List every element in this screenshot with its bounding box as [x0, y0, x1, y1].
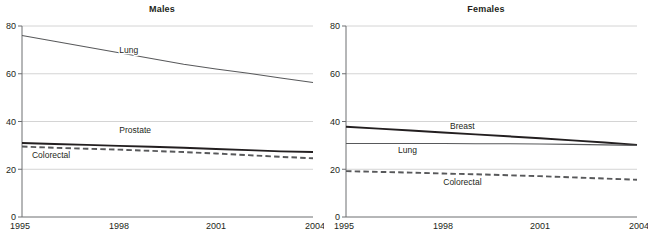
series-label-lung: Lung	[119, 45, 138, 55]
chart-females: 0204060801995199820012004BreastBreastLun…	[324, 0, 648, 234]
ytick-label-60: 60	[6, 69, 16, 79]
xtick-label-1998: 1998	[433, 221, 453, 231]
chart-males: 0204060801995199820012004LungLungProstat…	[0, 0, 324, 234]
ytick-label-20: 20	[330, 165, 340, 175]
series-label-colorectal: Colorectal	[32, 150, 70, 160]
ytick-label-60: 60	[330, 69, 340, 79]
ytick-label-80: 80	[330, 21, 340, 31]
panel-males: Males 0204060801995199820012004LungLungP…	[0, 0, 324, 234]
series-label-breast: Breast	[450, 121, 475, 131]
ytick-label-40: 40	[6, 117, 16, 127]
xtick-label-2004: 2004	[629, 221, 648, 231]
series-label-colorectal: Colorectal	[443, 177, 481, 187]
ytick-label-40: 40	[330, 117, 340, 127]
series-label-lung: Lung	[398, 145, 417, 155]
xtick-label-2001: 2001	[530, 221, 550, 231]
xtick-label-1995: 1995	[334, 221, 354, 231]
xtick-label-1998: 1998	[109, 221, 129, 231]
series-label-prostate: Prostate	[119, 125, 151, 135]
panel-females: Females 0204060801995199820012004BreastB…	[324, 0, 648, 234]
series-line-lung	[22, 36, 313, 83]
xtick-label-2001: 2001	[206, 221, 226, 231]
series-line-breast	[346, 127, 637, 145]
series-line-lung	[346, 143, 637, 145]
xtick-label-2004: 2004	[305, 221, 324, 231]
xtick-label-1995: 1995	[10, 221, 30, 231]
ytick-label-20: 20	[6, 165, 16, 175]
series-line-colorectal	[346, 171, 637, 180]
figure-two-panel-cancer-mortality-trends: Males 0204060801995199820012004LungLungP…	[0, 0, 648, 234]
ytick-label-80: 80	[6, 21, 16, 31]
